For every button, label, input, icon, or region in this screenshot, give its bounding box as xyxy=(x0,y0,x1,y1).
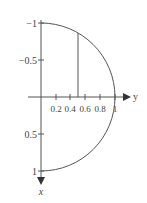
tick-label-1: 1 xyxy=(32,166,37,177)
tick-label-h04: 0.4 xyxy=(64,104,76,114)
tick-label-h08: 0.8 xyxy=(94,104,106,114)
x-axis-label: x xyxy=(38,186,44,197)
y-axis-label: y xyxy=(133,91,138,102)
tick-label-h06: 0.6 xyxy=(79,104,91,114)
y-axis-arrow-icon xyxy=(123,93,131,101)
tick-label-neg1: −1 xyxy=(26,18,37,29)
x-axis-arrow-icon xyxy=(37,177,45,185)
tick-label-h1: 1 xyxy=(113,104,118,114)
tick-label-neg05: −0.5 xyxy=(19,55,37,66)
diagram: −1 −0.5 0.5 1 0.2 0.4 0.6 0.8 1 y x xyxy=(0,0,147,203)
tick-label-05: 0.5 xyxy=(25,129,38,140)
tick-label-h02: 0.2 xyxy=(50,104,61,114)
